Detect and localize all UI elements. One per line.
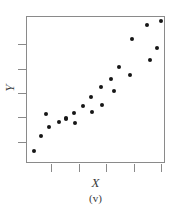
y-tick-3 bbox=[18, 117, 26, 118]
figure-caption: (v) bbox=[26, 192, 165, 204]
y-axis-label: Y bbox=[2, 73, 18, 103]
y-tick-0 bbox=[18, 44, 26, 45]
y-tick-2 bbox=[18, 93, 26, 94]
plot-frame bbox=[26, 16, 165, 163]
x-tick-2 bbox=[106, 164, 107, 172]
y-tick-1 bbox=[18, 69, 26, 70]
scatter-plot-figure: Y X (v) bbox=[0, 0, 181, 215]
x-tick-3 bbox=[134, 164, 135, 172]
x-tick-1 bbox=[79, 164, 80, 172]
y-tick-4 bbox=[18, 142, 26, 143]
x-tick-0 bbox=[51, 164, 52, 172]
x-axis-label: X bbox=[26, 175, 165, 191]
x-tick-4 bbox=[161, 164, 162, 172]
